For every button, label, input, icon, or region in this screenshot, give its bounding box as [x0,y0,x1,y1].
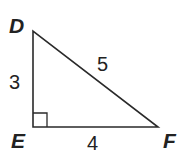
triangle-def [33,31,158,127]
vertex-label-d: D [9,14,24,37]
vertex-label-e: E [11,129,26,152]
right-angle-marker [33,113,47,127]
vertex-label-f: F [163,129,177,152]
side-length-ef: 4 [87,132,98,154]
side-length-de: 3 [9,71,20,93]
triangle-diagram: D E F 3 5 4 [0,0,183,155]
side-length-df: 5 [97,53,108,75]
